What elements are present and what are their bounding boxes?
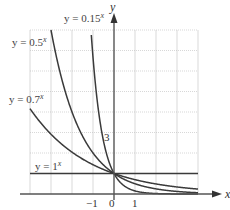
label-05: y = 0.5x [12,35,47,48]
curve-series-0 [91,35,198,194]
x-tick-1: 1 [132,197,138,209]
y-axis-label: y [109,0,116,14]
label-015: y = 0.15x [64,11,104,24]
curve-series-1 [51,30,198,193]
label-1: y = 1x [35,159,62,172]
label-07: y = 0.7x [9,92,44,105]
x-tick-0: 0 [109,197,115,209]
x-tick-neg1: −1 [86,197,98,209]
x-axis-arrow-icon [212,191,222,198]
y-tick-3: 3 [104,131,110,143]
y-axis-arrow-icon [111,13,118,23]
x-axis-label: x [224,187,230,201]
exponential-decay-chart: x y −1 0 1 3 y = 0.15x y = 0.5x y = 0.7x… [0,0,230,210]
